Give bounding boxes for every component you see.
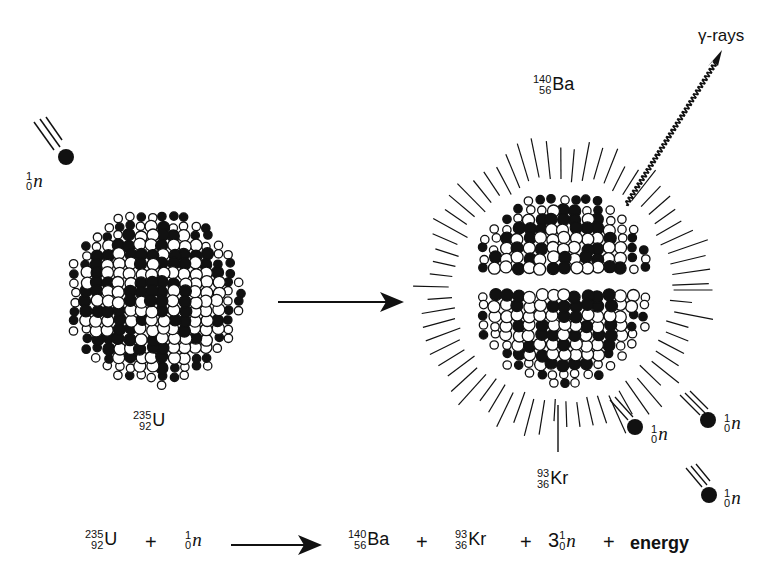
barium-label: 14056 Ba bbox=[533, 74, 574, 95]
equation-energy: energy bbox=[630, 533, 689, 554]
gamma-ray-wave-icon bbox=[626, 50, 722, 205]
plus-sign: + bbox=[416, 531, 428, 554]
fission-diagram bbox=[0, 0, 776, 577]
released-neutron-icon bbox=[610, 397, 643, 435]
krypton-fragment-icon bbox=[479, 289, 650, 388]
krypton-label: 9336 Kr bbox=[537, 468, 568, 489]
released-neutron-icon bbox=[686, 464, 717, 503]
incoming-neutron-icon bbox=[34, 117, 74, 165]
uranium-label: 23592 U bbox=[133, 410, 165, 431]
released-neutron-label: 10 n bbox=[724, 487, 741, 509]
released-neutron-label: 10 n bbox=[651, 423, 668, 445]
incoming-neutron-label: 10 n bbox=[26, 170, 43, 192]
plus-sign: + bbox=[520, 531, 532, 554]
equation-three-neutrons: 3 10 n bbox=[548, 529, 576, 552]
uranium-nucleus-icon bbox=[69, 212, 245, 389]
equation-krypton: 9336 Kr bbox=[455, 529, 486, 550]
equation-barium: 14056 Ba bbox=[348, 529, 389, 550]
released-neutron-icon bbox=[680, 391, 716, 428]
gamma-rays-label: γ-rays bbox=[698, 26, 744, 46]
barium-fragment-icon bbox=[478, 195, 650, 276]
released-neutron-label: 10 n bbox=[724, 412, 741, 434]
fission-equation: 23592 U + 10 n 14056 Ba + 9336 Kr + 3 10… bbox=[0, 525, 776, 565]
plus-sign: + bbox=[603, 531, 615, 554]
